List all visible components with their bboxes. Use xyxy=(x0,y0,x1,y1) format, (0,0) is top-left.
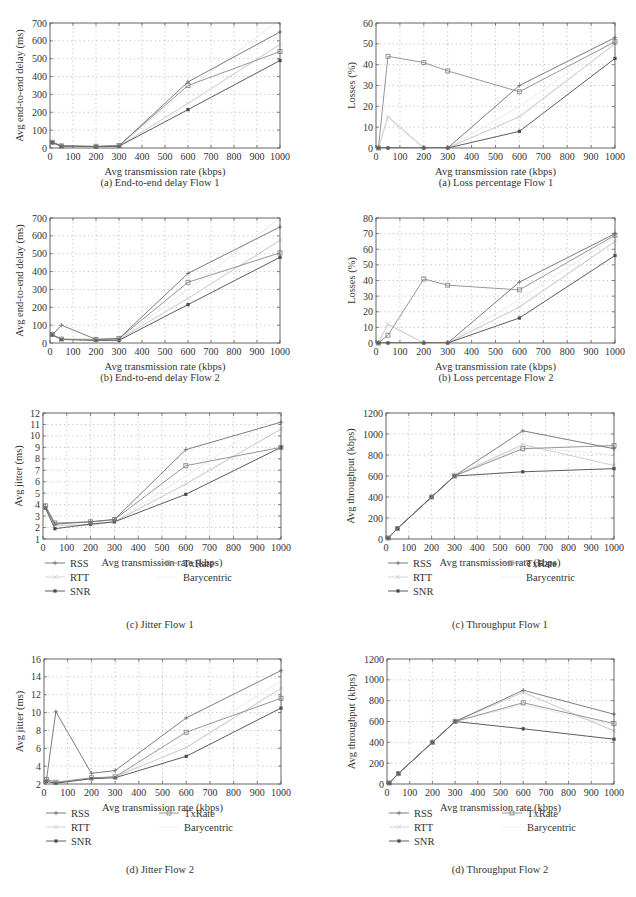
caption-delay1: (a) End-to-end delay Flow 1 xyxy=(101,177,220,189)
y-tick-label: 7 xyxy=(35,465,40,476)
legend-item-rss: RSS xyxy=(71,808,90,819)
series-rtt xyxy=(387,690,616,785)
series-snr xyxy=(45,707,283,785)
y-tick-label: 0 xyxy=(379,779,384,790)
y-tick-label: 400 xyxy=(369,737,384,748)
legend-item-snr: SNR xyxy=(414,836,434,847)
x-tick-label: 300 xyxy=(112,151,127,162)
x-tick-label: 700 xyxy=(202,542,217,553)
x-tick-label: 800 xyxy=(226,787,241,798)
legend-item-barycentric: Barycentric xyxy=(527,822,576,833)
y-tick-label: 80 xyxy=(363,213,373,224)
caption-delay2: (b) End-to-end delay Flow 2 xyxy=(100,372,220,384)
y-tick-label: 0 xyxy=(378,534,383,545)
x-tick-label: 400 xyxy=(470,542,485,553)
x-tick-label: 0 xyxy=(48,346,53,357)
y-tick-label: 4 xyxy=(35,499,40,510)
series-rss xyxy=(387,688,616,785)
x-tick-label: 900 xyxy=(584,346,599,357)
x-tick-label: 200 xyxy=(83,542,98,553)
x-tick-label: 400 xyxy=(135,151,150,162)
x-tick-label: 400 xyxy=(135,346,150,357)
series-txrate xyxy=(43,445,283,525)
series-txrate xyxy=(50,50,282,149)
x-tick-label: 0 xyxy=(48,151,53,162)
series-txrate xyxy=(50,251,282,342)
x-tick-label: 600 xyxy=(181,346,196,357)
x-tick-label: 800 xyxy=(561,787,576,798)
y-tick-label: 60 xyxy=(363,18,373,29)
y-tick-label: 60 xyxy=(363,244,373,255)
series-rss xyxy=(386,429,616,541)
y-tick-label: 200 xyxy=(32,107,47,118)
series-snr xyxy=(51,256,282,342)
x-tick-label: 1000 xyxy=(270,346,290,357)
x-tick-label: 300 xyxy=(440,151,455,162)
x-tick-label: 100 xyxy=(392,151,407,162)
y-tick-label: 600 xyxy=(32,230,47,241)
x-tick-label: 700 xyxy=(536,346,551,357)
series-rtt xyxy=(44,686,283,785)
figure-grid: 0100200300400500600700800900100001002003… xyxy=(0,0,636,897)
caption-jitter1: (c) Jitter Flow 1 xyxy=(126,619,193,631)
y-tick-label: 200 xyxy=(368,513,383,524)
series-rtt xyxy=(43,427,283,528)
series-snr xyxy=(51,59,282,148)
y-axis-label: Avg throughput (kbps) xyxy=(346,673,358,769)
y-tick-label: 10 xyxy=(363,122,373,133)
chart-delay2: 0100200300400500600700800900100001002003… xyxy=(14,213,290,385)
legend-item-txrate: TxRate xyxy=(526,558,557,569)
grid xyxy=(386,413,614,539)
y-axis-label: Avg jitter (ms) xyxy=(14,690,26,752)
x-tick-label: 300 xyxy=(112,346,127,357)
legend-item-barycentric: Barycentric xyxy=(526,572,575,583)
x-tick-label: 500 xyxy=(158,151,173,162)
x-tick-label: 1000 xyxy=(604,542,624,553)
x-tick-label: 0 xyxy=(42,787,47,798)
grid xyxy=(50,23,280,148)
y-axis-label: Avg end-to-end delay (ms) xyxy=(14,29,26,142)
x-tick-label: 800 xyxy=(560,346,575,357)
x-tick-label: 600 xyxy=(515,542,530,553)
y-tick-label: 3 xyxy=(35,511,40,522)
y-tick-label: 600 xyxy=(368,471,383,482)
x-tick-label: 500 xyxy=(488,151,503,162)
x-tick-label: 800 xyxy=(227,346,242,357)
legend-item-txrate: TxRate xyxy=(527,808,558,819)
y-tick-label: 700 xyxy=(32,213,47,224)
x-tick-label: 1000 xyxy=(270,151,290,162)
series-barycentric xyxy=(52,19,280,146)
plot-frame xyxy=(44,659,281,784)
x-tick-label: 500 xyxy=(488,346,503,357)
caption-jitter2: (d) Jitter Flow 2 xyxy=(126,864,194,876)
y-tick-label: 600 xyxy=(369,716,384,727)
y-tick-label: 8 xyxy=(36,725,41,736)
series-rss xyxy=(50,30,282,149)
caption-loss1: (a) Loss percentage Flow 1 xyxy=(439,177,553,189)
y-axis-label: Avg end-to-end delay (ms) xyxy=(14,224,26,337)
x-tick-label: 400 xyxy=(470,787,485,798)
y-tick-label: 11 xyxy=(30,419,40,430)
y-tick-label: 300 xyxy=(32,284,47,295)
plot-frame xyxy=(50,23,280,148)
y-axis-label: Avg throughput (kbps) xyxy=(345,428,357,524)
legend-item-rtt: RTT xyxy=(413,572,433,583)
x-tick-label: 500 xyxy=(158,346,173,357)
series-rss xyxy=(50,225,282,342)
x-tick-label: 700 xyxy=(202,787,217,798)
legend-item-snr: SNR xyxy=(413,586,433,597)
legend-item-txrate: TxRate xyxy=(183,558,214,569)
y-tick-label: 50 xyxy=(363,259,373,270)
legend-item-barycentric: Barycentric xyxy=(184,822,233,833)
x-tick-label: 800 xyxy=(561,542,576,553)
x-tick-label: 600 xyxy=(178,542,193,553)
plot-frame xyxy=(376,218,615,343)
x-tick-label: 300 xyxy=(440,346,455,357)
legend-item-txrate: TxRate xyxy=(184,808,215,819)
y-tick-label: 200 xyxy=(32,302,47,313)
chart-throughput1: 0100200300400500600700800900100002004006… xyxy=(345,408,624,632)
x-tick-label: 900 xyxy=(584,787,599,798)
y-tick-label: 10 xyxy=(31,707,41,718)
x-tick-label: 100 xyxy=(66,151,81,162)
x-tick-label: 500 xyxy=(493,542,508,553)
